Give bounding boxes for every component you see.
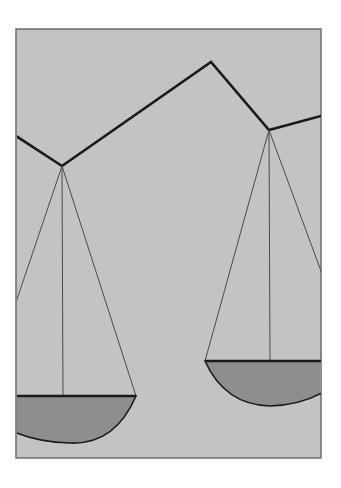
balance-scales-illustration	[0, 0, 341, 488]
